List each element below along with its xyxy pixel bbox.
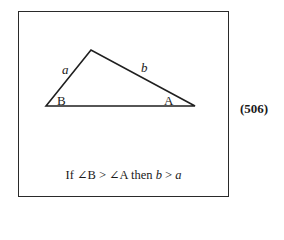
caption-a: a [175, 168, 181, 182]
side-label-a: a [62, 63, 69, 76]
caption-mid: > [162, 168, 175, 182]
angle-label-b: B [57, 94, 66, 107]
caption-prefix: If ∠B > ∠A then [66, 168, 156, 182]
side-label-b: b [141, 61, 148, 74]
equation-number: (506) [240, 102, 268, 115]
figure-caption: If ∠B > ∠A then b > a [18, 169, 229, 182]
angle-label-a: A [164, 94, 173, 107]
